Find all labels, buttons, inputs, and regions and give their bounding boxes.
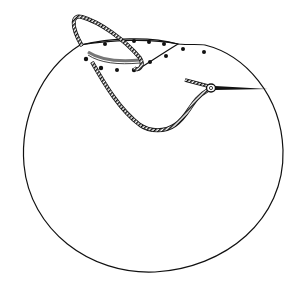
needle (207, 84, 269, 92)
suture-illustration: Line illustration of a suture technique:… (0, 0, 298, 286)
illustration-canvas (0, 0, 298, 286)
circle-outline (23, 45, 283, 272)
suture-thread (74, 17, 208, 131)
